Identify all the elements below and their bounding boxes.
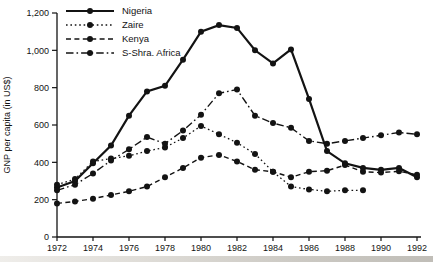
legend-label-kenya: Kenya	[122, 33, 150, 44]
data-point-zaire	[180, 135, 186, 141]
data-point-nigeria	[162, 83, 168, 89]
data-point-zaire	[342, 187, 348, 193]
data-point-s-shra-africa	[324, 141, 330, 147]
legend-swatch-marker-s-shra-africa	[87, 50, 93, 56]
x-tick-label: 1982	[227, 243, 247, 253]
y-tick-label: 600	[34, 120, 49, 130]
data-point-nigeria	[288, 46, 294, 52]
y-axis-title: GNP per capita (in US$)	[2, 77, 12, 174]
y-tick-label: 800	[34, 83, 49, 93]
data-point-nigeria	[234, 25, 240, 31]
data-point-nigeria	[108, 143, 114, 149]
data-point-nigeria	[252, 47, 258, 53]
data-point-zaire	[144, 148, 150, 154]
data-point-s-shra-africa	[378, 132, 384, 138]
data-point-kenya	[216, 152, 222, 158]
x-tick-label: 1978	[155, 243, 175, 253]
data-point-nigeria	[324, 148, 330, 154]
legend-label-zaire: Zaire	[122, 19, 144, 30]
data-point-s-shra-africa	[198, 112, 204, 118]
scanned-chart-page: 02004006008001,0001,20019721974197619781…	[0, 0, 433, 262]
data-point-nigeria	[198, 29, 204, 35]
data-point-kenya	[180, 165, 186, 171]
data-point-s-shra-africa	[342, 138, 348, 144]
data-point-s-shra-africa	[396, 130, 402, 136]
data-point-s-shra-africa	[234, 87, 240, 93]
data-point-s-shra-africa	[414, 131, 420, 137]
x-tick-label: 1984	[263, 243, 283, 253]
data-point-kenya	[252, 167, 258, 173]
data-point-kenya	[414, 172, 420, 178]
data-point-kenya	[72, 199, 78, 205]
data-point-zaire	[72, 176, 78, 182]
data-point-zaire	[126, 153, 132, 159]
data-point-kenya	[234, 158, 240, 164]
data-point-s-shra-africa	[360, 135, 366, 141]
data-point-kenya	[306, 169, 312, 175]
data-point-zaire	[324, 188, 330, 194]
legend-swatch-marker-nigeria	[87, 8, 93, 14]
y-tick-label: 200	[34, 195, 49, 205]
data-point-zaire	[306, 186, 312, 192]
data-point-nigeria	[216, 22, 222, 28]
x-tick-label: 1972	[47, 243, 67, 253]
data-point-s-shra-africa	[72, 182, 78, 188]
data-point-kenya	[360, 169, 366, 175]
data-point-zaire	[216, 131, 222, 137]
data-point-s-shra-africa	[180, 128, 186, 134]
data-point-zaire	[360, 187, 366, 193]
data-point-s-shra-africa	[108, 158, 114, 164]
data-point-s-shra-africa	[252, 113, 258, 119]
legend-label-s-shra-africa: S-Shra. Africa	[122, 47, 181, 58]
data-point-kenya	[162, 174, 168, 180]
legend-swatch-marker-zaire	[87, 22, 93, 28]
data-point-zaire	[54, 182, 60, 188]
data-point-zaire	[198, 123, 204, 129]
data-point-s-shra-africa	[216, 90, 222, 96]
y-tick-label: 1,000	[26, 46, 49, 56]
data-point-kenya	[54, 200, 60, 206]
data-point-kenya	[90, 196, 96, 202]
data-point-s-shra-africa	[90, 171, 96, 177]
data-point-s-shra-africa	[144, 134, 150, 140]
x-tick-label: 1976	[119, 243, 139, 253]
y-tick-label: 1,200	[26, 8, 49, 18]
data-point-s-shra-africa	[126, 146, 132, 152]
data-point-kenya	[324, 168, 330, 174]
x-tick-label: 1988	[335, 243, 355, 253]
x-tick-label: 1990	[371, 243, 391, 253]
data-point-nigeria	[270, 60, 276, 66]
data-point-s-shra-africa	[162, 141, 168, 147]
data-point-kenya	[270, 169, 276, 175]
scan-artifact-strip	[0, 256, 433, 262]
data-point-kenya	[108, 192, 114, 198]
data-point-nigeria	[180, 57, 186, 63]
data-point-s-shra-africa	[54, 187, 60, 193]
data-point-kenya	[126, 188, 132, 194]
data-point-nigeria	[306, 96, 312, 102]
data-point-kenya	[342, 162, 348, 168]
y-tick-label: 400	[34, 158, 49, 168]
data-point-kenya	[396, 168, 402, 174]
x-tick-label: 1986	[299, 243, 319, 253]
legend-label-nigeria: Nigeria	[122, 5, 153, 16]
data-point-kenya	[198, 155, 204, 161]
data-point-zaire	[288, 184, 294, 190]
y-tick-label: 0	[44, 232, 49, 242]
x-tick-label: 1974	[83, 243, 103, 253]
data-point-kenya	[378, 170, 384, 176]
data-point-s-shra-africa	[270, 120, 276, 126]
data-point-s-shra-africa	[288, 125, 294, 131]
data-point-zaire	[234, 140, 240, 146]
x-tick-label: 1992	[407, 243, 427, 253]
legend-swatch-marker-kenya	[87, 36, 93, 42]
data-point-kenya	[144, 184, 150, 190]
gnp-per-capita-line-chart: 02004006008001,0001,20019721974197619781…	[0, 0, 433, 262]
data-point-nigeria	[126, 113, 132, 119]
data-point-kenya	[288, 174, 294, 180]
data-point-nigeria	[144, 88, 150, 94]
data-point-zaire	[90, 158, 96, 164]
data-point-s-shra-africa	[306, 138, 312, 144]
data-point-zaire	[252, 151, 258, 157]
x-tick-label: 1980	[191, 243, 211, 253]
